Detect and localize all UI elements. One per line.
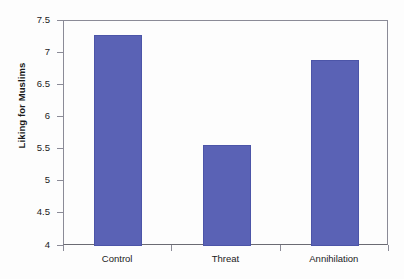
x-axis-tick	[171, 245, 172, 251]
bar-control	[94, 35, 142, 247]
y-axis-tick-label: 7.5	[10, 14, 50, 25]
y-axis-tick-label: 5	[10, 174, 50, 185]
y-axis-tick-label: 5.5	[10, 142, 50, 153]
y-axis-tick-label: 6.5	[10, 78, 50, 89]
bar-annihilation	[311, 60, 359, 246]
x-axis-tick	[280, 245, 281, 251]
x-axis-tick	[63, 245, 64, 251]
bar-chart: Liking for Muslims 44.555.566.577.5 Cont…	[0, 0, 404, 279]
x-axis-tick-label: Threat	[166, 253, 286, 264]
x-axis-tick	[388, 245, 389, 251]
x-axis-tick-label: Control	[57, 253, 177, 264]
y-axis-tick-label: 4	[10, 239, 50, 250]
y-axis-tick-label: 4.5	[10, 206, 50, 217]
x-axis-tick-label: Annihilation	[274, 253, 394, 264]
plot-area	[63, 20, 388, 245]
bar-threat	[203, 145, 251, 246]
y-axis-tick-label: 6	[10, 110, 50, 121]
y-axis-tick-label: 7	[10, 46, 50, 57]
